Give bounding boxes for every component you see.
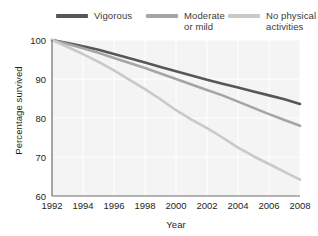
survival-line-chart: Vigorous Moderate or mild No physical ac…: [0, 0, 318, 236]
y-tick-label: 100: [30, 35, 46, 46]
plot-svg: 6070809010019921994199619982000200220042…: [0, 30, 318, 236]
x-tick-label: 2002: [196, 200, 217, 211]
y-tick-label: 70: [35, 152, 46, 163]
legend-item-moderate: Moderate or mild: [146, 10, 225, 32]
x-tick-label: 2008: [289, 200, 310, 211]
legend-swatch-no-physical-activities: [228, 14, 260, 18]
y-tick-label: 90: [35, 74, 46, 85]
x-tick-label: 1994: [72, 200, 93, 211]
y-axis-title: Percentage survived: [13, 46, 24, 176]
x-tick-label: 2004: [227, 200, 248, 211]
legend-item-vigorous: Vigorous: [56, 10, 132, 21]
x-tick-label: 1998: [134, 200, 155, 211]
legend-label-no-physical-activities: No physical activities: [266, 10, 316, 32]
plot-area: Percentage survived Year 607080901001992…: [0, 30, 318, 236]
legend-swatch-moderate: [146, 14, 178, 18]
y-tick-label: 80: [35, 113, 46, 124]
legend-item-no-physical-activities: No physical activities: [228, 10, 316, 32]
legend-label-moderate: Moderate or mild: [184, 10, 225, 32]
legend-swatch-vigorous: [56, 14, 88, 18]
x-tick-label: 2000: [165, 200, 186, 211]
x-tick-label: 2006: [258, 200, 279, 211]
legend-label-vigorous: Vigorous: [94, 10, 132, 21]
x-tick-label: 1996: [103, 200, 124, 211]
x-tick-label: 1992: [41, 200, 62, 211]
x-axis-title: Year: [52, 219, 300, 230]
